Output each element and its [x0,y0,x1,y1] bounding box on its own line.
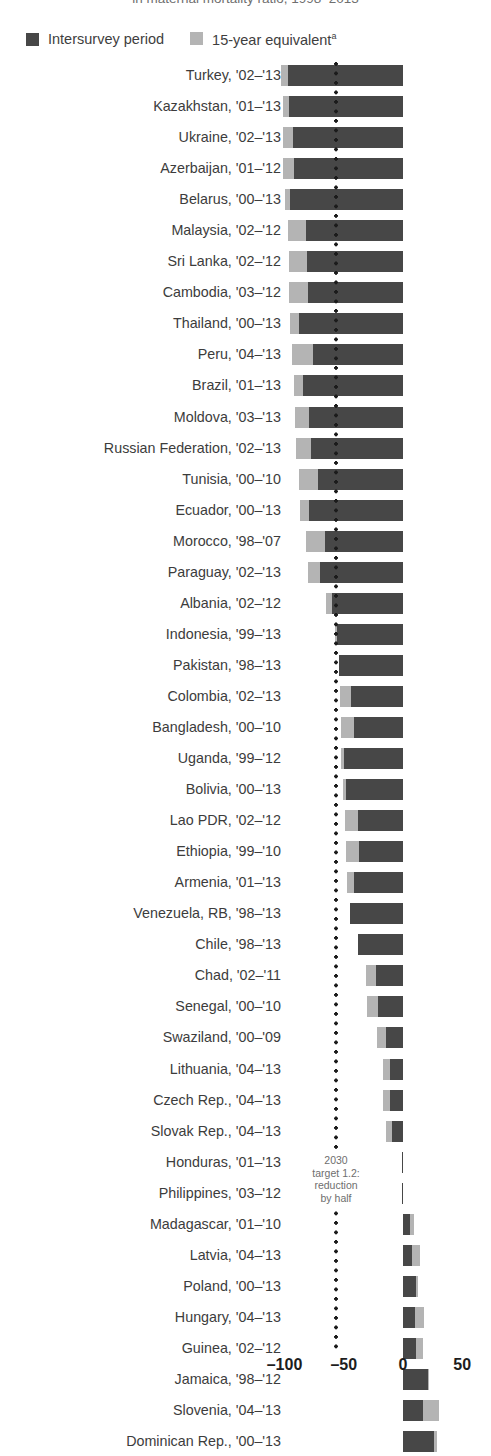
row-bars [0,1022,491,1053]
row-bars [0,1085,491,1116]
row-bars [0,619,491,650]
chart-row: Ecuador, '00–'13 [0,495,491,526]
bar-segment-intersurvey [346,779,403,800]
row-bars [0,1178,491,1209]
row-bars [0,91,491,122]
legend-label-equivalent: 15-year equivalenta [212,31,336,48]
row-bars [0,184,491,215]
chart-legend: Intersurvey period 15-year equivalenta [26,28,336,50]
chart-row: Belarus, '00–'13 [0,184,491,215]
bar-segment-intersurvey [320,562,403,583]
chart-row: Ethiopia, '99–'10 [0,836,491,867]
cut-off-caption: in maternal mortality ratio, 1998–2013 [0,0,491,7]
bar-segment-intersurvey [390,1090,403,1111]
row-bars [0,526,491,557]
row-bars [0,867,491,898]
chart-row: Latvia, '04–'13 [0,1240,491,1271]
annotation-line-3: reduction [292,1179,380,1192]
row-bars [0,1054,491,1085]
chart-row: Thailand, '00–'13 [0,308,491,339]
chart-row: Sri Lanka, '02–'12 [0,246,491,277]
bar-segment-intersurvey [376,965,403,986]
bar-segment-intersurvey [386,1027,403,1048]
row-bars [0,122,491,153]
row-bars [0,1209,491,1240]
bar-segment-intersurvey [390,1059,403,1080]
x-axis-tick-label: –50 [330,1356,357,1374]
row-bars [0,1426,491,1456]
legend-label-intersurvey: Intersurvey period [48,31,164,47]
row-bars [0,712,491,743]
chart-row: Indonesia, '99–'13 [0,619,491,650]
bar-segment-intersurvey [351,686,403,707]
bar-segment-intersurvey [332,593,403,614]
chart-row: Moldova, '03–'13 [0,402,491,433]
chart-row: Paraguay, '02–'13 [0,557,491,588]
chart-row: Philippines, '03–'12 [0,1178,491,1209]
bar-segment-intersurvey [293,127,403,148]
chart-row: Azerbaijan, '01–'12 [0,153,491,184]
row-bars [0,277,491,308]
row-bars [0,681,491,712]
row-bars [0,1302,491,1333]
chart-row: Venezuela, RB, '98–'13 [0,898,491,929]
bar-segment-intersurvey [289,96,403,117]
annotation-line-4: by half [292,1192,380,1205]
chart-row: Poland, '00–'13 [0,1271,491,1302]
chart-row: Uganda, '99–'12 [0,743,491,774]
x-axis-tick-label: 50 [453,1356,471,1374]
row-bars [0,836,491,867]
chart-row: Swaziland, '00–'09 [0,1022,491,1053]
chart-row: Slovak Rep., '04–'13 [0,1116,491,1147]
row-bars [0,743,491,774]
chart-row: Colombia, '02–'13 [0,681,491,712]
row-bars [0,588,491,619]
chart-row: Lao PDR, '02–'12 [0,805,491,836]
target-2030-annotation: 2030 target 1.2: reduction by half [292,1152,380,1206]
bar-segment-intersurvey [392,1121,403,1142]
legend-item-equivalent: 15-year equivalenta [190,31,336,48]
chart-row: Senegal, '00–'10 [0,991,491,1022]
x-axis-tick-label: –100 [267,1356,303,1374]
bar-segment-intersurvey [311,438,403,459]
row-bars [0,153,491,184]
bar-segment-intersurvey [402,1183,404,1204]
bar-segment-intersurvey [307,251,403,272]
chart-row: Russian Federation, '02–'13 [0,433,491,464]
row-bars [0,991,491,1022]
chart-row: Morocco, '98–'07 [0,526,491,557]
chart-row: Slovenia, '04–'13 [0,1395,491,1426]
bar-segment-intersurvey [354,717,403,738]
bar-segment-intersurvey [344,748,403,769]
bar-segment-intersurvey [306,220,403,241]
row-bars [0,495,491,526]
chart-row: Lithuania, '04–'13 [0,1054,491,1085]
bar-segment-intersurvey [290,189,403,210]
bar-segment-intersurvey [378,996,403,1017]
row-bars [0,1116,491,1147]
chart-row: Bolivia, '00–'13 [0,774,491,805]
chart-row: Malaysia, '02–'12 [0,215,491,246]
chart-row: Chad, '02–'11 [0,960,491,991]
row-bars [0,774,491,805]
bar-segment-intersurvey [313,344,403,365]
chart-row: Pakistan, '98–'13 [0,650,491,681]
bar-segment-intersurvey [350,903,403,924]
bar-segment-intersurvey [354,872,403,893]
row-bars [0,308,491,339]
chart-row: Albania, '02–'12 [0,588,491,619]
bar-segment-intersurvey [318,469,403,490]
chart-row: Dominican Rep., '00–'13 [0,1426,491,1456]
chart-row: Cambodia, '03–'12 [0,277,491,308]
bar-segment-intersurvey [294,158,403,179]
bar-segment-intersurvey [299,313,403,334]
row-bars [0,650,491,681]
bar-segment-intersurvey [403,1307,415,1328]
row-bars [0,339,491,370]
row-bars [0,402,491,433]
row-bars [0,1147,491,1178]
chart-row: Turkey, '02–'13 [0,60,491,91]
bar-segment-intersurvey [402,1152,404,1173]
chart-row: Chile, '98–'13 [0,929,491,960]
row-bars [0,1271,491,1302]
